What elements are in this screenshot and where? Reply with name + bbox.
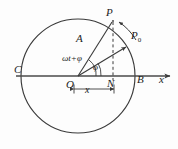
- label-point-p0: P0: [131, 30, 141, 44]
- figure-canvas: [0, 0, 178, 149]
- label-angle-phi: φ: [93, 63, 98, 72]
- label-point-p0-base: P: [131, 29, 138, 41]
- label-displacement-x: x: [85, 85, 89, 95]
- label-x-axis: x: [159, 74, 164, 85]
- point-marker-p: [112, 20, 114, 22]
- shm-reference-circle-figure: P P0 A ωt+φ φ C B x O N x: [0, 0, 178, 149]
- label-point-p: P: [106, 7, 113, 18]
- radius-vector-op0: [78, 47, 126, 76]
- label-origin-o: O: [66, 79, 74, 90]
- label-point-n: N: [107, 78, 114, 89]
- label-point-b: B: [137, 74, 144, 85]
- label-point-c: C: [14, 64, 21, 75]
- angle-arc-phi: [98, 63, 101, 76]
- label-angle-omega-t-phi: ωt+φ: [62, 54, 82, 63]
- label-amplitude-a: A: [76, 33, 83, 44]
- label-point-p0-subscript: 0: [138, 36, 142, 44]
